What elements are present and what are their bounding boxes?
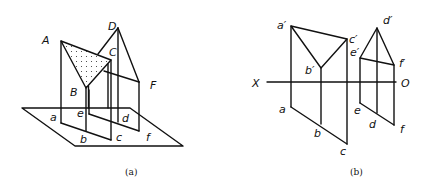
caption-b: (b): [350, 167, 363, 177]
diagram-canvas: A D C B F a e d b c f (a) X O a′: [0, 0, 428, 189]
label-b: b: [314, 127, 321, 140]
label-f-prime: f′: [399, 57, 406, 70]
front-view-abc: [291, 26, 347, 68]
label-e: e: [77, 107, 84, 120]
triangle-abc-shading: [61, 41, 111, 88]
caption-a: (a): [125, 167, 137, 177]
label-e: e: [354, 104, 361, 117]
label-f: f: [146, 131, 152, 144]
label-A: A: [41, 34, 50, 47]
label-c: c: [340, 145, 346, 158]
label-X: X: [251, 77, 260, 90]
label-d: d: [369, 118, 377, 131]
label-a: a: [50, 111, 57, 124]
label-c-prime: c′: [349, 33, 358, 46]
label-B: B: [70, 86, 78, 99]
label-a: a: [279, 103, 286, 116]
label-e-prime: e′: [350, 46, 360, 59]
label-b: b: [80, 133, 87, 146]
figure-b: X O a′ c′ b′ d′ e′ f′ a b c e d f (b): [251, 14, 410, 177]
projection-plane: [22, 108, 183, 146]
label-f: f: [400, 123, 406, 136]
label-b-prime: b′: [305, 64, 315, 77]
label-d: d: [122, 112, 130, 125]
label-c: c: [116, 131, 122, 144]
label-O: O: [401, 77, 410, 90]
label-D: D: [108, 20, 116, 33]
label-a-prime: a′: [277, 19, 287, 32]
label-F: F: [150, 79, 157, 92]
label-C: C: [109, 46, 117, 59]
label-d-prime: d′: [383, 14, 393, 27]
figure-a: A D C B F a e d b c f (a): [22, 20, 183, 177]
